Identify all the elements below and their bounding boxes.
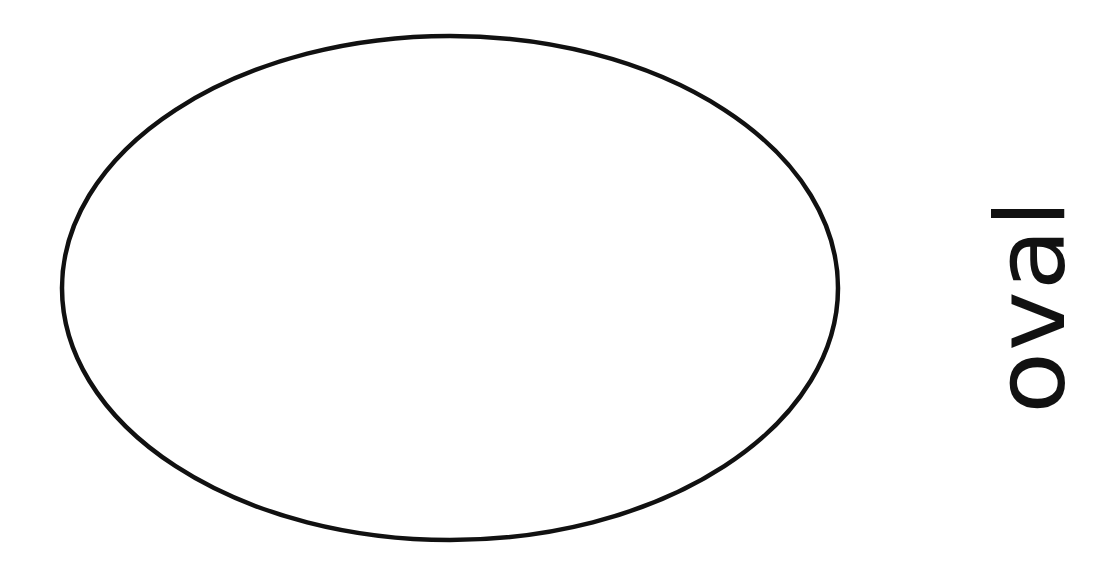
diagram-canvas [0, 0, 1108, 573]
oval-shape [62, 36, 838, 540]
shape-label: oval [983, 198, 1079, 413]
